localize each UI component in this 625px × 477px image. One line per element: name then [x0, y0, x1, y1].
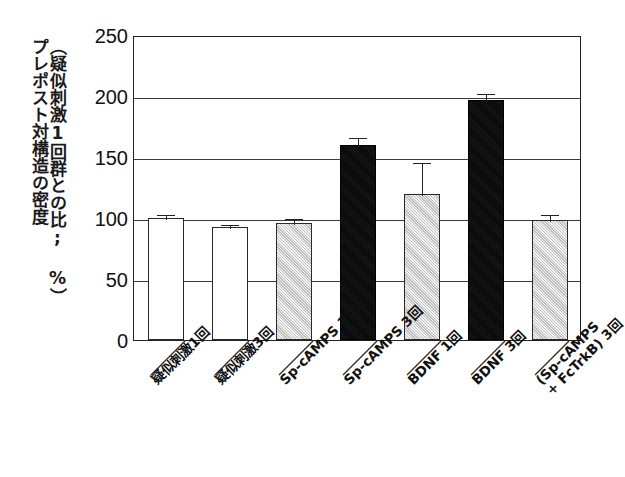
error-bar-6 [550, 215, 551, 222]
error-bar-cap-0 [157, 215, 175, 216]
y-tick-200: 200 [82, 86, 128, 109]
bar-6 [532, 220, 568, 340]
bar-1 [212, 227, 248, 340]
error-bar-5 [486, 94, 487, 101]
error-bar-cap-1 [221, 225, 239, 226]
y-tick-250: 250 [82, 25, 128, 48]
error-bar-3 [358, 138, 359, 147]
y-axis-label-line2: （疑似刺激1回群との比; %） [49, 38, 66, 305]
error-bar-cap-4 [413, 163, 431, 164]
bar-5 [468, 100, 504, 340]
y-axis-label: プレポスト対構造の密度 （疑似刺激1回群との比; %） [14, 38, 82, 343]
bar-2 [276, 223, 312, 340]
y-tick-150: 150 [82, 147, 128, 170]
y-axis-tick-labels: 250 200 150 100 50 0 [78, 0, 128, 477]
error-bar-cap-6 [541, 215, 559, 216]
y-tick-100: 100 [82, 208, 128, 231]
error-bar-cap-5 [477, 94, 495, 95]
error-bar-cap-2 [285, 219, 303, 220]
bars-layer [134, 37, 580, 340]
error-bar-cap-3 [349, 138, 367, 139]
plot-area [133, 36, 581, 341]
y-axis-label-line1: プレポスト対構造の密度 [31, 38, 48, 225]
y-tick-0: 0 [82, 330, 128, 353]
bar-0 [148, 218, 184, 340]
y-tick-50: 50 [82, 269, 128, 292]
error-bar-4 [422, 163, 423, 196]
